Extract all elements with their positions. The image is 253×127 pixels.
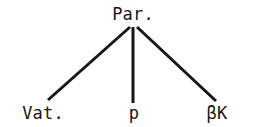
edge-root-to-left: [48, 27, 130, 100]
node-leaf-vat: Vat.: [22, 105, 64, 122]
node-root-par: Par.: [112, 6, 154, 23]
node-leaf-p: p: [129, 105, 139, 122]
edge-root-to-right: [137, 27, 216, 101]
stemma-diagram: Par. Vat. p βK: [0, 0, 253, 127]
node-leaf-beta-k: βK: [207, 105, 228, 122]
